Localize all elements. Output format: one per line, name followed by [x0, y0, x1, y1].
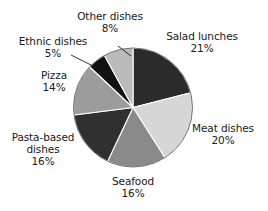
pie-label-pasta-based-dishes: Pasta-based dishes 16% [2, 131, 84, 168]
pie-label-ethnic-dishes: Ethnic dishes 5% [5, 35, 101, 59]
pie-slice-group [74, 48, 193, 167]
pie-label-meat-dishes-value: 20% [179, 134, 267, 146]
pie-label-pasta-based-dishes-name-line1: Pasta-based [2, 131, 84, 143]
pie-label-ethnic-dishes-value: 5% [5, 47, 101, 59]
pie-label-salad-lunches: Salad lunches 21% [146, 30, 258, 54]
pie-label-pizza-value: 14% [23, 81, 85, 93]
pie-label-pasta-based-dishes-value: 16% [2, 155, 84, 167]
pie-label-other-dishes: Other dishes 8% [62, 10, 158, 34]
pie-label-pizza-name: Pizza [23, 69, 85, 81]
pie-label-salad-lunches-value: 21% [146, 42, 258, 54]
pie-label-other-dishes-name: Other dishes [62, 10, 158, 22]
pie-label-seafood: Seafood 16% [94, 175, 172, 199]
pie-label-other-dishes-value: 8% [62, 22, 158, 34]
pie-label-meat-dishes-name: Meat dishes [179, 122, 267, 134]
pie-label-ethnic-dishes-name: Ethnic dishes [5, 35, 101, 47]
pie-label-seafood-value: 16% [94, 187, 172, 199]
pie-label-meat-dishes: Meat dishes 20% [179, 122, 267, 146]
pie-label-seafood-name: Seafood [94, 175, 172, 187]
pie-label-pizza: Pizza 14% [23, 69, 85, 93]
pie-label-pasta-based-dishes-name-line2: dishes [2, 143, 84, 155]
pie-label-salad-lunches-name: Salad lunches [146, 30, 258, 42]
pie-chart-figure: Other dishes 8% Salad lunches 21% Ethnic… [0, 0, 268, 211]
